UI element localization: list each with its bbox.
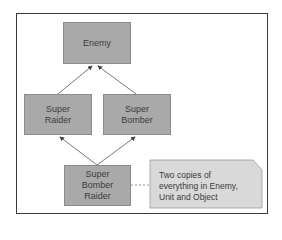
node-sbr-label-1: Super <box>82 169 114 180</box>
node-super-raider: Super Raider <box>24 94 92 135</box>
node-sbr-label-3: Raider <box>82 191 114 202</box>
note-line-2: everything in Enemy, <box>159 181 264 192</box>
node-enemy-label: Enemy <box>83 38 111 49</box>
node-enemy: Enemy <box>63 22 131 64</box>
node-super-bomber-raider: Super Bomber Raider <box>64 165 131 206</box>
note-text: Two copies of everything in Enemy, Unit … <box>159 170 264 203</box>
node-super-bomber-label-2: Bomber <box>121 115 153 126</box>
node-super-bomber: Super Bomber <box>103 94 171 135</box>
node-sbr-label-2: Bomber <box>82 180 114 191</box>
note-line-1: Two copies of <box>159 170 264 181</box>
node-super-bomber-label-1: Super <box>121 104 153 115</box>
note-line-3: Unit and Object <box>159 192 264 203</box>
node-super-raider-label-2: Raider <box>45 115 72 126</box>
node-super-raider-label-1: Super <box>45 104 72 115</box>
